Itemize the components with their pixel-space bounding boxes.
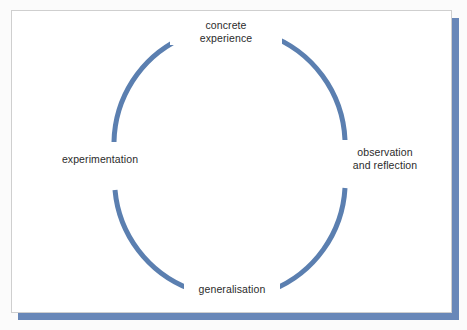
cycle-label-generalisation: generalisation [184,283,280,296]
arc-generalisation-to-experimentation [115,190,190,289]
cycle-label-concrete-experience: concrete experience [170,19,282,45]
cycle-label-observation-and-reflection: observation and reflection [320,146,450,172]
arc-experience-to-observation [268,35,345,140]
arc-observation-to-generalisation [272,188,345,290]
arc-experimentation-to-experience [114,39,180,142]
figure-root: concrete experience observation and refl… [0,0,467,330]
cycle-label-experimentation: experimentation [40,153,160,166]
